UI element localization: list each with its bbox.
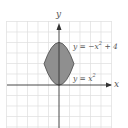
bottom-curve-label: y = x2 bbox=[73, 73, 96, 82]
top-curve-label: y = −x2 + 4 bbox=[73, 41, 118, 50]
x-axis-arrow-icon bbox=[106, 83, 112, 88]
y-axis-arrow-icon bbox=[57, 23, 62, 30]
y-axis-label: y bbox=[56, 10, 61, 19]
coordinate-plane bbox=[0, 0, 128, 128]
x-axis-label: x bbox=[114, 80, 119, 89]
